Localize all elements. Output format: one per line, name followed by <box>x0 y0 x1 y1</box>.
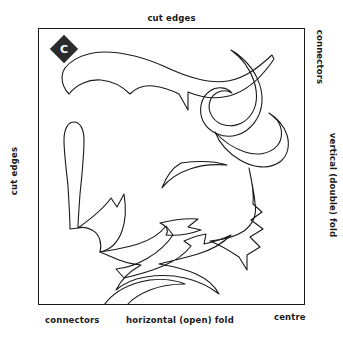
label-vertical-double-fold: vertical (double) fold <box>328 130 338 240</box>
badge-letter: C <box>51 36 77 62</box>
label-connectors-right: connectors <box>315 27 325 87</box>
label-cut-edges-top: cut edges <box>0 13 343 23</box>
cut-shape-right-wing <box>215 113 288 167</box>
cut-shape-right-zigzag <box>210 168 263 270</box>
cut-shape-left-leaf <box>78 194 125 252</box>
cut-shape-bottom-sweep <box>104 280 185 305</box>
cut-shape-lower-hook <box>160 219 201 236</box>
cut-line-artwork <box>38 28 305 305</box>
cut-shape-upper-right-curl <box>201 50 262 136</box>
corner-badge: C <box>51 36 77 62</box>
label-horizontal-open-fold: horizontal (open) fold <box>90 315 270 325</box>
cut-shape-mid-slit <box>162 162 227 188</box>
label-centre: centre <box>274 312 306 322</box>
label-cut-edges-left: cut edges <box>9 141 19 201</box>
papercut-pattern-diagram: cut edges cut edges connectors vertical … <box>0 0 343 347</box>
cut-shape-left-tongue <box>64 122 84 229</box>
